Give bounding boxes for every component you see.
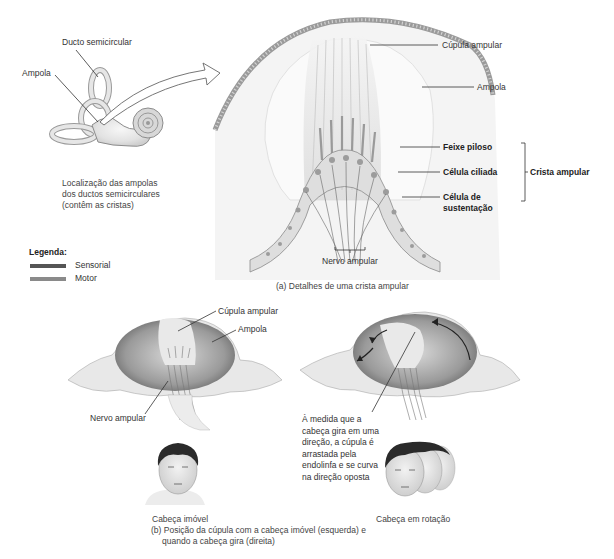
rotation-description-line-4: arrastada pela <box>302 449 379 461</box>
legend-label-motor: Motor <box>75 273 97 284</box>
label-supporting-cell: Célula de sustentação <box>443 192 493 214</box>
label-hair-cell: Célula ciliada <box>443 167 497 178</box>
label-crista-ampullaris: Crista ampular <box>530 167 590 178</box>
legend-swatch-sensory <box>30 264 66 268</box>
label-cupula-b: Cúpula ampular <box>218 306 278 317</box>
rotation-description-line-1: À medida que a <box>302 414 379 426</box>
panel-b-caption: (b) Posição da cúpula com a cabeça imóve… <box>151 525 366 547</box>
rotation-description-line-3: direção, a cúpula é <box>302 437 379 449</box>
panel-a-caption: (a) Detalhes de uma crista ampular <box>276 281 409 292</box>
caption-head-stationary: Cabeça imóvel <box>152 514 208 525</box>
label-supporting-cell-line-1: Célula de <box>443 192 493 203</box>
label-ampulla-overview: Ampola <box>22 68 51 79</box>
overview-caption: Localização das ampolas dos ductos semic… <box>62 178 160 211</box>
legend-label-sensory: Sensorial <box>75 260 110 271</box>
rotation-description: À medida que a cabeça gira em uma direçã… <box>302 414 379 484</box>
label-supporting-cell-line-2: sustentação <box>443 203 493 214</box>
head-stationary-illustration <box>145 443 205 505</box>
head-rotating-illustration <box>385 442 455 496</box>
overview-caption-line-1: Localização das ampolas <box>62 178 160 189</box>
caption-head-rotating: Cabeça em rotação <box>376 514 450 525</box>
panel-b-caption-line-2: quando a cabeça gira (direita) <box>151 536 366 547</box>
ampulla-rotating-illustration <box>300 312 520 420</box>
panel-b-caption-line-1: (b) Posição da cúpula com a cabeça imóve… <box>151 525 366 536</box>
label-semicircular-duct: Ducto semicircular <box>62 37 132 48</box>
overview-caption-line-2: dos ductos semicirculares <box>62 189 160 200</box>
label-ampulla-a: Ampola <box>477 82 506 93</box>
overview-caption-line-3: (contêm as cristas) <box>62 200 160 211</box>
label-hair-bundle: Feixe piloso <box>443 142 492 153</box>
rotation-description-line-2: cabeça gira em uma <box>302 426 379 438</box>
label-ampullary-nerve-a: Nervo ampular <box>322 256 378 267</box>
label-ampullary-nerve-b: Nervo ampular <box>90 413 146 424</box>
rotation-description-line-6: na direção oposta <box>302 472 379 484</box>
inner-ear-illustration <box>52 70 163 146</box>
legend-title: Legenda: <box>29 247 67 258</box>
label-cupula-a: Cúpula ampular <box>442 40 502 51</box>
rotation-description-line-5: endolinfa e se curva <box>302 460 379 472</box>
legend-swatch-motor <box>30 277 66 281</box>
label-ampulla-b: Ampola <box>238 324 267 335</box>
